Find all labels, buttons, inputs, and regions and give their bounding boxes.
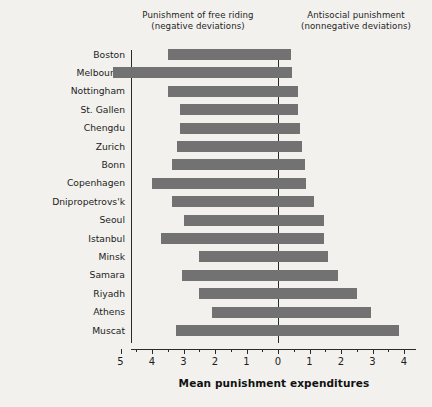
x-tick-7 [341,349,342,354]
y-axis-label-melbourne: Melbourne [0,67,125,78]
bar-bonn [172,159,304,170]
bar-riyadh [199,288,357,299]
bar-athens [212,307,371,318]
x-tick-label-5: 0 [266,356,290,367]
bar-minsk [199,251,328,262]
chart-header-right-line2: (nonnegative deviations) [280,21,432,32]
x-tick-label-7: 2 [329,356,353,367]
x-minor-tick [199,349,200,352]
y-axis-label-bonn: Bonn [0,159,125,170]
y-axis-label-riyadh: Riyadh [0,288,125,299]
y-axis-label-minsk: Minsk [0,251,125,262]
bar-melbourne [113,67,293,78]
bar-copenhagen [152,178,306,189]
x-minor-tick [294,349,295,352]
y-axis-line [131,50,132,343]
x-tick-label-6: 1 [298,356,322,367]
y-axis-label-st-gallen: St. Gallen [0,104,125,115]
x-minor-tick [168,349,169,352]
y-axis-label-dnipropetrovs-k: Dnipropetrovs'k [0,196,125,207]
bar-istanbul [161,233,323,244]
chart-header-left-line1: Punishment of free riding [118,10,278,21]
x-tick-5 [278,349,279,354]
x-tick-3 [215,349,216,354]
x-minor-tick [357,349,358,352]
y-axis-label-boston: Boston [0,49,125,60]
y-axis-label-muscat: Muscat [0,325,125,336]
y-axis-label-samara: Samara [0,269,125,280]
x-minor-tick [136,349,137,352]
x-tick-label-0: 5 [109,356,133,367]
bar-muscat [176,325,400,336]
x-tick-2 [184,349,185,354]
y-axis-label-copenhagen: Copenhagen [0,177,125,188]
bar-chengdu [180,123,300,134]
bar-nottingham [168,86,299,97]
x-tick-9 [404,349,405,354]
y-axis-label-nottingham: Nottingham [0,85,125,96]
bar-seoul [184,215,324,226]
y-axis-label-zurich: Zurich [0,141,125,152]
x-tick-4 [247,349,248,354]
x-tick-8 [373,349,374,354]
chart-header-right: Antisocial punishment (nonnegative devia… [280,10,432,32]
antisocial-punishment-bar-chart: Punishment of free riding (negative devi… [0,0,432,407]
x-tick-6 [310,349,311,354]
bar-boston [168,49,291,60]
bar-zurich [177,141,301,152]
chart-header-left: Punishment of free riding (negative devi… [118,10,278,32]
x-tick-label-2: 3 [172,356,196,367]
x-tick-1 [152,349,153,354]
x-tick-label-1: 4 [140,356,164,367]
bar-samara [182,270,338,281]
x-axis-title: Mean punishment expenditures [131,377,417,389]
bar-st-gallen [180,104,298,115]
x-tick-label-9: 4 [392,356,416,367]
x-tick-0 [121,349,122,354]
x-minor-tick [231,349,232,352]
x-tick-label-3: 2 [203,356,227,367]
y-axis-label-athens: Athens [0,306,125,317]
bar-dnipropetrovs-k [172,196,314,207]
x-tick-label-8: 3 [361,356,385,367]
x-minor-tick [325,349,326,352]
y-axis-label-seoul: Seoul [0,214,125,225]
chart-header-right-line1: Antisocial punishment [280,10,432,21]
chart-header-left-line2: (negative deviations) [118,21,278,32]
y-axis-label-istanbul: Istanbul [0,233,125,244]
x-tick-label-4: 1 [235,356,259,367]
y-axis-label-chengdu: Chengdu [0,122,125,133]
x-minor-tick [262,349,263,352]
x-minor-tick [388,349,389,352]
